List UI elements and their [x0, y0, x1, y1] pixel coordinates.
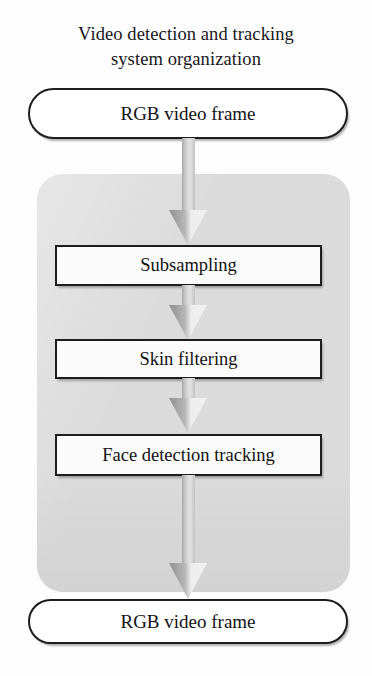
node-skin-filtering: Skin filtering [55, 339, 322, 379]
node-subsampling: Subsampling [55, 245, 322, 286]
node-face-detection-tracking-label: Face detection tracking [102, 445, 275, 466]
figure-title-line-2: system organization [0, 47, 372, 72]
node-subsampling-label: Subsampling [140, 255, 237, 276]
node-input-label: RGB video frame [120, 103, 255, 125]
processing-panel [37, 174, 350, 592]
panel-shading [37, 174, 350, 592]
figure-title: Video detection and tracking system orga… [0, 22, 372, 72]
node-output-rgb-video-frame: RGB video frame [28, 599, 348, 644]
node-input-rgb-video-frame: RGB video frame [28, 88, 348, 139]
figure-title-line-1: Video detection and tracking [0, 22, 372, 47]
node-skin-filtering-label: Skin filtering [139, 349, 237, 370]
node-face-detection-tracking: Face detection tracking [55, 434, 322, 476]
node-output-label: RGB video frame [120, 611, 255, 633]
flowchart-figure: Video detection and tracking system orga… [0, 0, 372, 676]
